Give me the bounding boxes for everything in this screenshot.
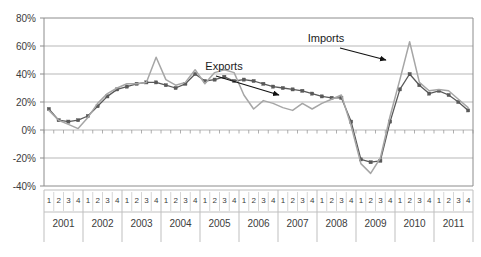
- data-point-marker: [194, 72, 197, 75]
- series-line-exports: [49, 74, 468, 162]
- xtick-quarter-label: 3: [222, 196, 227, 205]
- data-point-marker: [291, 88, 294, 91]
- xtick-quarter-label: 4: [115, 196, 120, 205]
- xtick-quarter-label: 1: [281, 196, 286, 205]
- data-point-marker: [281, 86, 284, 89]
- xtick-quarter-label: 1: [86, 196, 91, 205]
- xtick-quarter-label: 3: [261, 196, 266, 205]
- data-point-marker: [408, 72, 411, 75]
- xtick-year-label: 2003: [130, 218, 153, 229]
- xtick-quarter-label: 3: [456, 196, 461, 205]
- xtick-quarter-label: 3: [417, 196, 422, 205]
- data-point-marker: [262, 82, 265, 85]
- ytick-label: 20%: [16, 97, 36, 108]
- xtick-quarter-label: 2: [407, 196, 412, 205]
- data-point-marker: [174, 86, 177, 89]
- xtick-year-label: 2006: [247, 218, 270, 229]
- xtick-quarter-label: 4: [76, 196, 81, 205]
- xtick-quarter-label: 4: [466, 196, 471, 205]
- data-point-marker: [242, 78, 245, 81]
- xtick-year-label: 2010: [403, 218, 426, 229]
- ytick-label: 0%: [22, 125, 37, 136]
- xtick-year-label: 2005: [208, 218, 231, 229]
- xtick-quarter-label: 4: [427, 196, 432, 205]
- data-point-marker: [155, 81, 158, 84]
- xtick-quarter-label: 3: [300, 196, 305, 205]
- xtick-year-label: 2007: [286, 218, 309, 229]
- xtick-quarter-label: 2: [173, 196, 178, 205]
- xtick-year-label: 2004: [169, 218, 192, 229]
- xtick-quarter-label: 3: [183, 196, 188, 205]
- xtick-quarter-label: 2: [95, 196, 100, 205]
- ytick-label: -20%: [13, 153, 36, 164]
- xtick-quarter-label: 4: [193, 196, 198, 205]
- xtick-year-label: 2009: [364, 218, 387, 229]
- xtick-quarter-label: 4: [232, 196, 237, 205]
- data-point-marker: [467, 109, 470, 112]
- xtick-quarter-label: 1: [47, 196, 52, 205]
- xtick-quarter-label: 1: [437, 196, 442, 205]
- data-point-marker: [369, 161, 372, 164]
- xtick-quarter-label: 2: [56, 196, 61, 205]
- xtick-quarter-label: 1: [359, 196, 364, 205]
- xtick-quarter-label: 1: [164, 196, 169, 205]
- xtick-quarter-label: 4: [349, 196, 354, 205]
- xtick-year-label: 2002: [91, 218, 114, 229]
- data-point-marker: [447, 93, 450, 96]
- xtick-quarter-label: 3: [66, 196, 71, 205]
- data-point-marker: [320, 95, 323, 98]
- data-point-marker: [77, 119, 80, 122]
- xtick-quarter-label: 4: [310, 196, 315, 205]
- data-point-marker: [67, 120, 70, 123]
- xtick-quarter-label: 4: [154, 196, 159, 205]
- chart-container: 80%60%40%20%0%-20%-40%ExportsImports1234…: [0, 0, 481, 257]
- data-point-marker: [252, 79, 255, 82]
- xtick-quarter-label: 4: [388, 196, 393, 205]
- xtick-year-label: 2008: [325, 218, 348, 229]
- xtick-quarter-label: 2: [368, 196, 373, 205]
- data-point-marker: [398, 88, 401, 91]
- data-point-marker: [272, 85, 275, 88]
- xtick-quarter-label: 2: [329, 196, 334, 205]
- data-point-marker: [164, 84, 167, 87]
- xtick-quarter-label: 3: [144, 196, 149, 205]
- xtick-quarter-label: 1: [203, 196, 208, 205]
- xtick-quarter-label: 2: [212, 196, 217, 205]
- xtick-quarter-label: 1: [242, 196, 247, 205]
- annotation-label-imports: Imports: [308, 32, 345, 44]
- xtick-quarter-label: 3: [105, 196, 110, 205]
- data-point-marker: [125, 85, 128, 88]
- xtick-quarter-label: 3: [378, 196, 383, 205]
- xtick-quarter-label: 2: [446, 196, 451, 205]
- annotation-leader-imports: [340, 48, 386, 60]
- data-point-marker: [301, 89, 304, 92]
- data-point-marker: [213, 78, 216, 81]
- xtick-year-label: 2001: [52, 218, 75, 229]
- xtick-quarter-label: 1: [398, 196, 403, 205]
- ytick-label: 80%: [16, 13, 36, 24]
- xtick-quarter-label: 3: [339, 196, 344, 205]
- xtick-quarter-label: 4: [271, 196, 276, 205]
- xtick-year-label: 2011: [443, 218, 465, 229]
- annotation-label-exports: Exports: [205, 60, 243, 72]
- line-chart: 80%60%40%20%0%-20%-40%ExportsImports1234…: [0, 0, 481, 257]
- xtick-quarter-label: 2: [290, 196, 295, 205]
- ytick-label: 60%: [16, 41, 36, 52]
- ytick-label: 40%: [16, 69, 36, 80]
- xtick-quarter-label: 2: [134, 196, 139, 205]
- xtick-quarter-label: 1: [125, 196, 130, 205]
- ytick-label: -40%: [13, 181, 36, 192]
- xtick-quarter-label: 1: [320, 196, 325, 205]
- xtick-quarter-label: 2: [251, 196, 256, 205]
- series-line-imports: [49, 42, 468, 174]
- data-point-marker: [428, 92, 431, 95]
- data-point-marker: [311, 92, 314, 95]
